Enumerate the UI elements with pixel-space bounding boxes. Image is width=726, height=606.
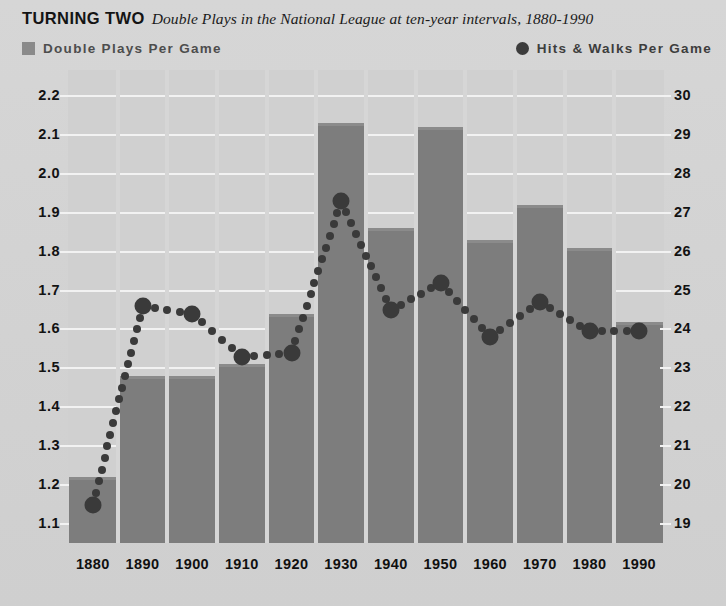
legend-label-double-plays: Double Plays Per Game [43, 41, 222, 56]
right-axis-tick: 20 [674, 477, 691, 492]
right-axis: 302928272625242322212019 [668, 70, 714, 550]
right-axis-tick-mark [660, 328, 671, 330]
trend-dot [598, 327, 606, 335]
data-point[interactable] [531, 294, 548, 311]
right-axis-tick-mark [660, 134, 671, 136]
trend-dot [198, 318, 206, 326]
bar[interactable] [466, 240, 514, 543]
legend-label-hits-walks: Hits & Walks Per Game [537, 41, 712, 56]
trend-dot [307, 290, 315, 298]
data-point[interactable] [382, 302, 399, 319]
data-point[interactable] [631, 323, 648, 340]
right-axis-tick: 21 [674, 438, 691, 453]
x-axis-tick-1880: 1880 [68, 556, 118, 572]
trend-dot [417, 290, 425, 298]
left-axis-tick: 1.8 [38, 244, 60, 259]
right-axis-tick: 30 [674, 88, 691, 103]
bar-separator [116, 70, 120, 543]
data-point[interactable] [134, 298, 151, 315]
data-point[interactable] [283, 344, 300, 361]
bar-top-highlight [268, 314, 316, 317]
x-axis-tick-1950: 1950 [416, 556, 466, 572]
right-axis-tick-mark [660, 95, 671, 97]
bar-slot [465, 70, 515, 543]
bar-separator [612, 70, 616, 543]
bar-separator [314, 70, 318, 543]
x-axis-tick-1900: 1900 [167, 556, 217, 572]
left-axis-tick: 1.7 [38, 283, 60, 298]
right-axis-tick: 24 [674, 321, 691, 336]
bar-top-highlight [516, 205, 564, 208]
trend-dot [98, 466, 106, 474]
right-axis-tick-mark [660, 406, 671, 408]
trend-dot [453, 297, 461, 305]
chart-subtitle: Double Plays in the National League at t… [152, 10, 594, 27]
bar[interactable] [317, 123, 365, 543]
trend-dot [318, 255, 326, 263]
bar[interactable] [218, 364, 266, 543]
trend-dot [314, 267, 322, 275]
right-axis-tick: 29 [674, 127, 691, 142]
data-point[interactable] [333, 193, 350, 210]
trend-dot [208, 327, 216, 335]
data-point[interactable] [84, 496, 101, 513]
x-axis-tick-1990: 1990 [614, 556, 664, 572]
chart-legend: Double Plays Per Game Hits & Walks Per G… [22, 41, 712, 61]
trend-dot [352, 230, 360, 238]
bar-top-highlight [417, 127, 465, 130]
page-artifact [664, 590, 704, 602]
bar-separator [513, 70, 517, 543]
trend-dot [326, 232, 334, 240]
data-point[interactable] [581, 323, 598, 340]
bar-top-highlight [317, 123, 365, 126]
bar-slot [416, 70, 466, 543]
data-point[interactable] [432, 274, 449, 291]
trend-dot [367, 262, 375, 270]
x-axis-tick-1940: 1940 [366, 556, 416, 572]
right-axis-tick: 26 [674, 244, 691, 259]
bar-separator [414, 70, 418, 543]
bar-separator [364, 70, 368, 543]
bar[interactable] [566, 248, 614, 543]
trend-dot [470, 315, 478, 323]
x-axis-tick-1970: 1970 [515, 556, 565, 572]
left-axis-tick: 1.2 [38, 477, 60, 492]
left-axis-tick: 1.4 [38, 399, 60, 414]
right-axis-tick-mark [660, 290, 671, 292]
bar[interactable] [168, 376, 216, 543]
trend-dot [295, 325, 303, 333]
x-axis-tick-1910: 1910 [217, 556, 267, 572]
data-point[interactable] [233, 348, 250, 365]
trend-dot [407, 295, 415, 303]
trend-dot [566, 316, 574, 324]
trend-dot [516, 312, 524, 320]
bar-slot [68, 70, 118, 543]
legend-item-hits-walks: Hits & Walks Per Game [516, 41, 712, 56]
data-point[interactable] [482, 329, 499, 346]
trend-dot [461, 306, 469, 314]
trend-dot [362, 252, 370, 260]
trend-dot [106, 431, 114, 439]
trend-dot [112, 407, 120, 415]
trend-dot [556, 310, 564, 318]
bar-separator [215, 70, 219, 543]
trend-dot [263, 351, 271, 359]
bar[interactable] [516, 205, 564, 543]
x-axis-tick-1890: 1890 [118, 556, 168, 572]
trend-dot [357, 241, 365, 249]
right-axis-tick: 22 [674, 399, 691, 414]
trend-dot [101, 454, 109, 462]
bar-slot [614, 70, 664, 543]
left-axis-tick: 2.2 [38, 88, 60, 103]
bar[interactable] [615, 322, 663, 543]
trend-dot [333, 209, 341, 217]
bar[interactable] [119, 376, 167, 543]
circle-swatch-icon [516, 42, 529, 55]
right-axis-tick-mark [660, 523, 671, 525]
trend-dot [623, 327, 631, 335]
right-axis-tick-mark [660, 484, 671, 486]
trend-dot [121, 372, 129, 380]
bar[interactable] [417, 127, 465, 543]
bar-slot [316, 70, 366, 543]
data-point[interactable] [184, 305, 201, 322]
